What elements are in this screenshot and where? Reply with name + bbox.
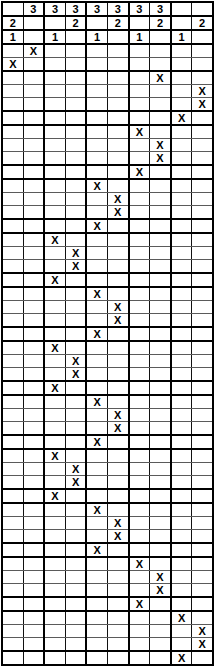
empty-cell[interactable] [129,476,150,490]
empty-cell[interactable] [86,341,107,355]
empty-cell[interactable] [23,71,44,85]
empty-cell[interactable] [192,287,213,301]
empty-cell[interactable] [129,449,150,463]
empty-cell[interactable] [129,395,150,409]
empty-cell[interactable] [23,341,44,355]
empty-cell[interactable] [171,449,192,463]
empty-cell[interactable] [65,409,86,422]
empty-cell[interactable] [150,193,171,206]
empty-cell[interactable] [2,111,23,125]
empty-cell[interactable] [2,165,23,179]
header-number-cell[interactable]: 3 [150,2,171,16]
marked-cell[interactable]: X [65,368,86,382]
empty-cell[interactable] [23,152,44,166]
empty-cell[interactable] [65,327,86,341]
empty-cell[interactable] [86,651,107,665]
empty-cell[interactable] [171,301,192,314]
empty-cell[interactable] [2,651,23,665]
empty-cell[interactable] [192,273,213,287]
empty-cell[interactable] [65,503,86,517]
empty-cell[interactable] [44,517,65,530]
empty-cell[interactable] [129,638,150,652]
empty-cell[interactable] [129,85,150,98]
empty-cell[interactable] [150,98,171,112]
empty-cell[interactable] [65,381,86,395]
empty-cell[interactable] [107,111,128,125]
empty-cell[interactable] [171,233,192,247]
empty-cell[interactable] [23,381,44,395]
empty-cell[interactable] [44,571,65,584]
empty-cell[interactable] [171,314,192,328]
marked-cell[interactable]: X [107,206,128,220]
marked-cell[interactable]: X [86,327,107,341]
empty-cell[interactable] [23,449,44,463]
marked-cell[interactable]: X [129,125,150,139]
empty-cell[interactable] [86,381,107,395]
empty-cell[interactable] [44,179,65,193]
marked-cell[interactable]: X [86,503,107,517]
empty-cell[interactable] [192,503,213,517]
empty-cell[interactable] [150,435,171,449]
empty-cell[interactable] [192,247,213,260]
empty-cell[interactable] [192,327,213,341]
empty-cell[interactable] [44,597,65,611]
empty-cell[interactable] [23,98,44,112]
empty-cell[interactable] [150,557,171,571]
marked-cell[interactable]: X [44,341,65,355]
empty-cell[interactable] [2,139,23,152]
empty-cell[interactable] [150,273,171,287]
empty-cell[interactable] [23,651,44,665]
empty-cell[interactable] [86,476,107,490]
empty-cell[interactable] [65,219,86,233]
empty-cell[interactable] [192,206,213,220]
empty-cell[interactable] [171,422,192,436]
marked-cell[interactable]: X [192,85,213,98]
empty-cell[interactable] [171,165,192,179]
empty-cell[interactable] [171,179,192,193]
empty-cell[interactable] [44,625,65,638]
empty-cell[interactable] [86,489,107,503]
marked-cell[interactable]: X [86,395,107,409]
header-number-cell[interactable]: 2 [192,16,213,30]
empty-cell[interactable] [65,625,86,638]
empty-cell[interactable] [171,260,192,274]
empty-cell[interactable] [150,463,171,476]
empty-cell[interactable] [44,58,65,72]
empty-cell[interactable] [44,651,65,665]
empty-cell[interactable] [171,543,192,557]
empty-cell[interactable] [107,98,128,112]
empty-cell[interactable] [2,638,23,652]
empty-cell[interactable] [192,152,213,166]
empty-cell[interactable] [23,395,44,409]
empty-cell[interactable] [107,368,128,382]
empty-cell[interactable] [23,489,44,503]
empty-cell[interactable] [65,152,86,166]
empty-cell[interactable] [129,233,150,247]
empty-cell[interactable] [86,111,107,125]
empty-cell[interactable] [44,85,65,98]
empty-cell[interactable] [150,543,171,557]
empty-cell[interactable] [86,584,107,598]
empty-cell[interactable] [65,530,86,544]
header-empty-cell[interactable] [171,2,192,16]
marked-cell[interactable]: X [2,58,23,72]
header-number-cell[interactable]: 1 [44,30,65,44]
empty-cell[interactable] [2,543,23,557]
empty-cell[interactable] [129,463,150,476]
empty-cell[interactable] [107,584,128,598]
marked-cell[interactable]: X [129,597,150,611]
empty-cell[interactable] [129,260,150,274]
empty-cell[interactable] [44,219,65,233]
empty-cell[interactable] [107,125,128,139]
empty-cell[interactable] [171,557,192,571]
empty-cell[interactable] [86,625,107,638]
marked-cell[interactable]: X [107,193,128,206]
empty-cell[interactable] [171,85,192,98]
empty-cell[interactable] [192,314,213,328]
empty-cell[interactable] [171,625,192,638]
empty-cell[interactable] [65,233,86,247]
marked-cell[interactable]: X [86,219,107,233]
header-empty-cell[interactable] [171,16,192,30]
empty-cell[interactable] [192,368,213,382]
empty-cell[interactable] [2,98,23,112]
